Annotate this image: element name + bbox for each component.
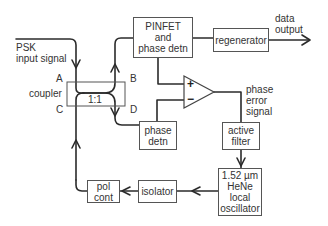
coupler-ratio: 1:1 [88, 94, 102, 105]
phase-error-line-3: signal [246, 106, 273, 117]
pinfet-phase-detn-block: PINFET and phase detn [133, 17, 193, 58]
port-a-label: A [56, 73, 63, 84]
oscillator-line-3: local [230, 192, 251, 203]
psk-input-label: PSK input signal [16, 42, 67, 64]
regenerator-block: regenerator [213, 28, 269, 52]
port-d-label: D [130, 104, 137, 115]
active-filter-line-1: active [228, 125, 254, 136]
data-output-label: data output [275, 13, 303, 35]
local-oscillator-block: 1.52 µm HeNe local oscillator [218, 168, 262, 216]
active-filter-line-2: filter [232, 136, 251, 147]
phase-detn-block: phase detn [139, 121, 177, 150]
phase-error-line-2: error [246, 95, 273, 106]
pol-cont-line-1: pol [97, 181, 110, 192]
phase-error-line-1: phase [246, 84, 273, 95]
phase-detn-line-1: phase [144, 125, 171, 136]
pinfet-line-2: and [155, 32, 172, 43]
port-b-label: B [130, 73, 137, 84]
amp-plus-sign: + [187, 78, 194, 90]
pol-cont-line-2: cont [94, 192, 113, 203]
coupler-label: coupler [29, 88, 62, 99]
pinfet-line-3: phase detn [138, 43, 188, 54]
phase-detn-to-amp-minus [157, 100, 184, 121]
isolator-label: isolator [141, 186, 173, 197]
port-c-label: C [56, 104, 63, 115]
pinfet-to-amp-plus [158, 58, 184, 84]
phase-error-signal-label: phase error signal [246, 84, 273, 117]
pol-cont-block: pol cont [87, 180, 120, 203]
phase-detn-line-2: detn [148, 136, 167, 147]
oscillator-line-1: 1.52 µm [222, 170, 258, 181]
pinfet-line-1: PINFET [145, 21, 181, 32]
amp-to-active-filter [214, 92, 241, 122]
amp-minus-sign: − [187, 93, 194, 105]
pol-cont-to-coupler [76, 180, 87, 191]
isolator-block: isolator [138, 180, 177, 203]
regenerator-label: regenerator [215, 35, 267, 46]
oscillator-line-2: HeNe [227, 181, 253, 192]
oscillator-line-4: oscillator [220, 203, 259, 214]
active-filter-block: active filter [222, 122, 260, 150]
